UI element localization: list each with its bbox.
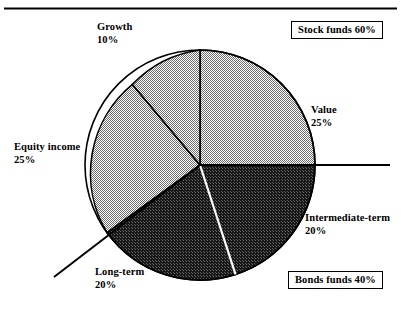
slice-label-value-name: Value xyxy=(311,104,337,115)
pie-slice-value xyxy=(200,50,315,165)
slice-label-growth: Growth 10% xyxy=(97,21,132,46)
slice-label-long-term-percent: 20% xyxy=(95,279,144,292)
slice-label-growth-percent: 10% xyxy=(97,34,132,47)
slice-label-long-term: Long-term 20% xyxy=(95,266,144,291)
slice-label-long-term-name: Long-term xyxy=(95,266,144,277)
slice-label-intermediate-term-name: Intermediate-term xyxy=(305,212,390,223)
chart-canvas: Growth 10% Value 25% Equity income 25% I… xyxy=(0,0,401,317)
slice-label-equity-income: Equity income 25% xyxy=(14,141,80,166)
slice-label-equity-income-percent: 25% xyxy=(14,154,80,167)
slice-label-intermediate-term: Intermediate-term 20% xyxy=(305,212,390,237)
slice-label-value-percent: 25% xyxy=(311,117,337,130)
callout-bonds-funds: Bonds funds 40% xyxy=(288,271,383,289)
callout-stock-funds: Stock funds 60% xyxy=(291,21,383,39)
slice-label-equity-income-name: Equity income xyxy=(14,141,80,152)
slice-label-value: Value 25% xyxy=(311,104,337,129)
slice-label-intermediate-term-percent: 20% xyxy=(305,225,390,238)
slice-label-growth-name: Growth xyxy=(97,21,132,32)
